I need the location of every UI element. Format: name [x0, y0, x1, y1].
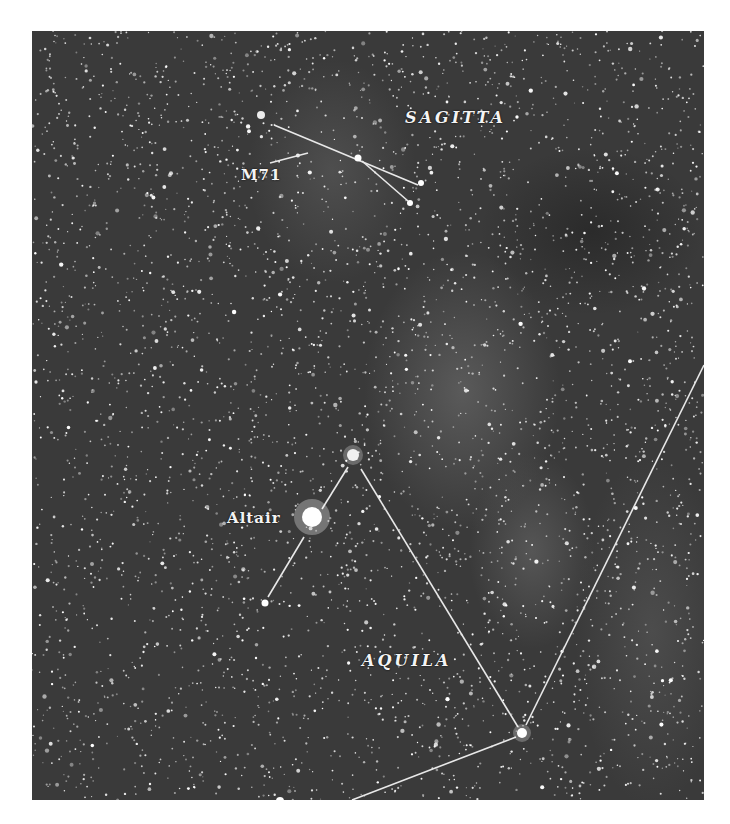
constellation-lines [32, 31, 704, 800]
aquila-lines [268, 365, 704, 800]
bright-stars [257, 111, 531, 800]
label-m71: M71 [241, 166, 281, 184]
star-field-photo: SAGITTA M71 Altair AQUILA [32, 31, 704, 800]
label-aquila: AQUILA [362, 651, 451, 670]
label-sagitta: SAGITTA [405, 108, 506, 127]
label-altair: Altair [227, 509, 281, 527]
sagitta-lines [270, 125, 418, 201]
